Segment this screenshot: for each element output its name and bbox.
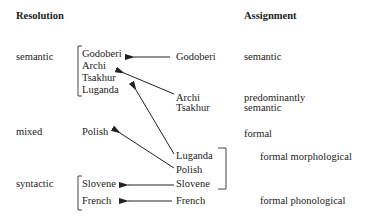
arrow-polish — [120, 133, 174, 168]
semantic-group-bracket — [78, 46, 82, 96]
arrow-luganda — [136, 90, 174, 154]
formal-morphological-bracket — [218, 148, 226, 189]
syntactic-group-bracket — [78, 176, 82, 210]
arrow-archi-tsakhur — [124, 73, 174, 94]
diagram-connectors — [0, 0, 368, 219]
